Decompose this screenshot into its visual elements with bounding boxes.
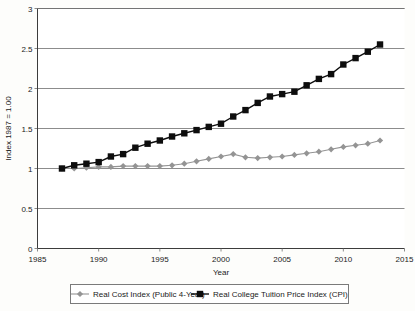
y-axis-title: Index 1987 = 1.00 <box>4 96 13 161</box>
marker-1-7 <box>144 141 150 147</box>
marker-1-19 <box>291 89 297 95</box>
marker-1-11 <box>193 127 199 133</box>
marker-1-14 <box>230 113 236 119</box>
marker-1-5 <box>120 151 126 157</box>
marker-1-20 <box>303 82 309 88</box>
marker-1-9 <box>169 133 175 139</box>
legend-label-0: Real Cost Index (Public 4-Year) <box>93 290 205 299</box>
xtick-label-5: 2010 <box>334 255 352 264</box>
ytick-label-4: 2 <box>28 85 33 94</box>
line-chart: 00.511.522.53198519901995200020052010201… <box>0 0 415 311</box>
marker-1-4 <box>108 153 114 159</box>
marker-1-1 <box>71 162 77 168</box>
marker-1-3 <box>95 159 101 165</box>
ytick-label-0: 0 <box>28 245 33 254</box>
marker-1-15 <box>242 107 248 113</box>
marker-1-16 <box>255 100 261 106</box>
xtick-label-6: 2015 <box>396 255 414 264</box>
marker-1-17 <box>267 93 273 99</box>
ytick-label-6: 3 <box>28 5 33 14</box>
marker-1-23 <box>340 61 346 67</box>
marker-1-26 <box>377 41 383 47</box>
marker-1-6 <box>132 145 138 151</box>
marker-1-8 <box>157 137 163 143</box>
legend-marker-1 <box>197 291 203 297</box>
xtick-label-2: 1995 <box>151 255 169 264</box>
xtick-label-1: 1990 <box>90 255 108 264</box>
marker-1-10 <box>181 130 187 136</box>
marker-1-24 <box>352 55 358 61</box>
ytick-label-3: 1.5 <box>21 125 33 134</box>
marker-1-12 <box>206 124 212 130</box>
xtick-label-3: 2000 <box>212 255 230 264</box>
marker-1-13 <box>218 121 224 127</box>
marker-1-25 <box>365 49 371 55</box>
marker-1-18 <box>279 91 285 97</box>
marker-1-2 <box>83 161 89 167</box>
ytick-label-2: 1 <box>28 165 33 174</box>
xtick-label-0: 1985 <box>29 255 47 264</box>
chart-container: 00.511.522.53198519901995200020052010201… <box>0 0 415 311</box>
ytick-label-1: 0.5 <box>21 205 33 214</box>
marker-1-21 <box>316 76 322 82</box>
legend-label-1: Real College Tuition Price Index (CPI) <box>213 290 348 299</box>
xtick-label-4: 2005 <box>273 255 291 264</box>
x-axis-title: Year <box>213 268 230 277</box>
ytick-label-5: 2.5 <box>21 45 33 54</box>
marker-1-0 <box>59 165 65 171</box>
marker-1-22 <box>328 71 334 77</box>
